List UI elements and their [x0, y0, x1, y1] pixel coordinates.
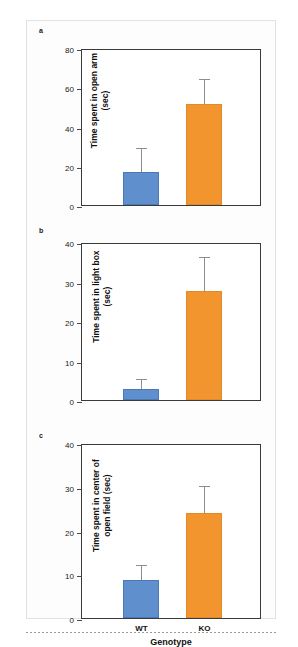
y-tick-label: 80: [65, 46, 74, 55]
error-bar-wt: [141, 566, 142, 581]
y-tick-label: 30: [65, 484, 74, 493]
error-bar-cap-wt: [136, 148, 147, 149]
y-tick-mark: [77, 244, 82, 245]
panel-b-letter: b: [39, 227, 43, 234]
bar-wt: [123, 580, 159, 618]
panel-c: c Time spent in center of open field (se…: [27, 426, 277, 620]
panel-b: b Time spent in light box (sec) 01020304…: [27, 221, 277, 426]
error-bar-cap-ko: [199, 79, 210, 80]
bar-ko: [186, 104, 222, 205]
y-tick-mark: [77, 489, 82, 490]
panel-a: a Time spent in open arm (sec) 020406080: [27, 21, 277, 221]
panel-c-plot-area: Time spent in center of open field (sec)…: [81, 444, 261, 619]
error-bar-wt: [141, 149, 142, 172]
y-tick-label: 20: [65, 163, 74, 172]
y-tick-mark: [77, 576, 82, 577]
panel-a-y-axis-title: Time spent in open arm (sec): [89, 31, 110, 171]
error-bar-wt: [141, 380, 142, 389]
bar-wt: [123, 172, 159, 205]
y-tick-label: 40: [65, 441, 74, 450]
y-tick-label: 60: [65, 85, 74, 94]
y-tick-mark: [77, 445, 82, 446]
bar-ko: [186, 513, 222, 618]
y-tick-mark: [77, 168, 82, 169]
error-bar-ko: [204, 487, 205, 513]
footer-dotted-rule: [26, 632, 276, 633]
error-bar-cap-wt: [136, 379, 147, 380]
panel-a-plot-area: Time spent in open arm (sec) 020406080: [81, 49, 261, 206]
figure-container: a Time spent in open arm (sec) 020406080…: [0, 0, 298, 647]
y-tick-label: 30: [65, 279, 74, 288]
y-tick-label: 0: [70, 398, 74, 407]
error-bar-cap-wt: [136, 565, 147, 566]
bar-wt: [123, 389, 159, 400]
panel-b-plot-area: Time spent in light box (sec) 010203040: [81, 243, 261, 401]
panel-c-y-axis-title: Time spent in center of open field (sec): [91, 426, 112, 586]
error-bar-cap-ko: [199, 486, 210, 487]
y-tick-mark: [77, 207, 82, 208]
y-tick-mark: [77, 402, 82, 403]
y-tick-mark: [77, 129, 82, 130]
error-bar-ko: [204, 80, 205, 104]
y-tick-mark: [77, 50, 82, 51]
y-tick-label: 10: [65, 358, 74, 367]
panel-a-letter: a: [39, 27, 43, 34]
figure-card: a Time spent in open arm (sec) 020406080…: [26, 20, 276, 619]
y-tick-mark: [77, 620, 82, 621]
y-tick-label: 20: [65, 528, 74, 537]
y-tick-label: 10: [65, 572, 74, 581]
y-tick-mark: [77, 363, 82, 364]
panel-b-y-axis-title: Time spent in light box (sec): [91, 222, 112, 372]
y-tick-mark: [77, 323, 82, 324]
y-tick-label: 20: [65, 319, 74, 328]
y-tick-mark: [77, 284, 82, 285]
y-tick-label: 40: [65, 124, 74, 133]
panel-c-x-axis-title: Genotype: [81, 637, 261, 647]
y-tick-label: 40: [65, 240, 74, 249]
bar-ko: [186, 291, 222, 400]
y-tick-label: 0: [70, 616, 74, 625]
panel-c-letter: c: [39, 432, 43, 439]
error-bar-ko: [204, 258, 205, 292]
error-bar-cap-ko: [199, 257, 210, 258]
y-tick-mark: [77, 89, 82, 90]
y-tick-mark: [77, 533, 82, 534]
y-tick-label: 0: [70, 203, 74, 212]
